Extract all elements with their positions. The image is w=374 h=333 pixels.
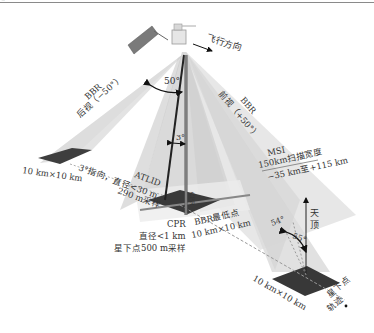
flight-direction-arrow xyxy=(193,44,212,51)
earthcare-observation-diagram: CPR 飞行方向 50° 3° BBR 后视（−50°） BBR 前视（+50°… xyxy=(0,0,374,333)
solar-panel xyxy=(128,26,158,54)
cpr-name: CPR xyxy=(167,219,186,229)
zenith-label-char2: 顶 xyxy=(310,220,319,230)
satellite xyxy=(128,24,196,54)
cpr-sampling: 星下点500 m采样 xyxy=(114,243,186,253)
angle-50-label: 50° xyxy=(164,76,180,86)
cpr-diameter: 直径<1 km xyxy=(139,231,185,241)
ground-track-label: 星下点轨迹 xyxy=(0,0,5,1)
zenith-label-char1: 天 xyxy=(310,208,319,218)
footprint-back-label: 10 km×10 km xyxy=(22,165,83,183)
flight-direction-label: 飞行方向 xyxy=(205,31,243,53)
satellite-body xyxy=(172,30,186,44)
ground-track-label-2: 轨迹 xyxy=(325,294,345,313)
angle-3-label: 3° xyxy=(176,133,185,142)
ground-track-point xyxy=(345,305,348,308)
cpr-column-label: CPR xyxy=(189,192,196,206)
